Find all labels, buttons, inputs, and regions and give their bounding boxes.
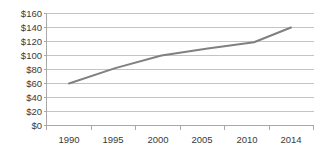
y-axis-label-20: $20: [26, 106, 42, 117]
y-axis-label-100: $100: [21, 50, 42, 61]
line-chart: $160 $140 $120 $100 $80 $60 $40 $20 $0 1…: [0, 0, 320, 153]
y-axis-label-0: $0: [31, 120, 42, 131]
y-axis-label-160: $160: [21, 8, 42, 19]
x-axis-label-1995: 1995: [102, 134, 123, 145]
x-axis-label-2005: 2005: [191, 134, 212, 145]
y-axis-label-140: $140: [21, 22, 42, 33]
y-axis-label-40: $40: [26, 92, 42, 103]
x-axis-label-2000: 2000: [147, 134, 168, 145]
x-axis-label-1990: 1990: [58, 134, 79, 145]
chart-background: [0, 0, 320, 153]
chart-canvas: $160 $140 $120 $100 $80 $60 $40 $20 $0 1…: [0, 0, 320, 153]
x-axis-label-2014: 2014: [280, 134, 301, 145]
y-axis-label-120: $120: [21, 36, 42, 47]
y-axis-label-60: $60: [26, 78, 42, 89]
x-axis-label-2010: 2010: [236, 134, 257, 145]
y-axis-label-80: $80: [26, 64, 42, 75]
